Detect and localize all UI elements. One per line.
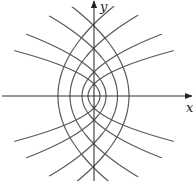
parabola-curve [0,0,100,181]
x-axis-label: x [186,100,194,115]
y-axis-label: y [99,0,108,14]
confocal-parabolas-diagram: x y [0,0,195,181]
parabola-curve [43,0,129,181]
left-opening-parabola-family [0,0,129,181]
right-opening-parabola-family [58,0,195,181]
